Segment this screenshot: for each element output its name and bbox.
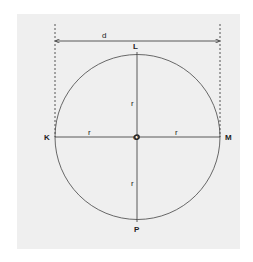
point-label-right: M xyxy=(225,133,232,142)
radius-label-left: r xyxy=(88,128,91,137)
point-label-top: L xyxy=(133,42,138,51)
radius-label-top: r xyxy=(131,99,134,108)
point-label-left: K xyxy=(44,133,50,142)
circle-diagram: d L K M P O r r r r xyxy=(0,0,253,262)
radius-label-right: r xyxy=(175,128,178,137)
diameter-label: d xyxy=(102,31,106,40)
point-label-bottom: P xyxy=(134,225,140,234)
radius-label-bottom: r xyxy=(131,179,134,188)
center-label: O xyxy=(133,133,139,142)
